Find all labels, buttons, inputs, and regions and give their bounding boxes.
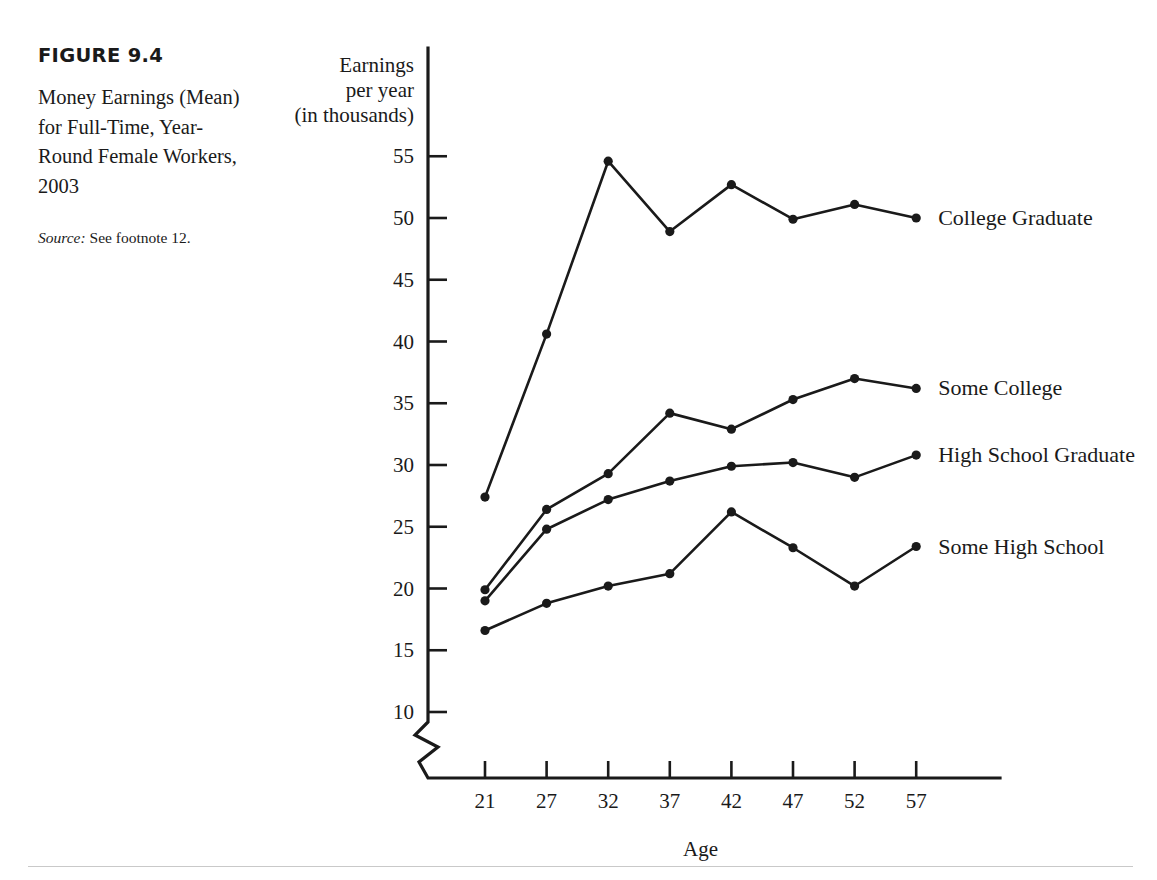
chart-axis-path [415,48,1000,778]
series-data-point [850,473,859,482]
series-label: College Graduate [938,205,1093,230]
y-axis-title-line: (in thousands) [294,103,414,127]
x-axis-tick-labels: 2127323742475257 [475,789,927,813]
series-data-point [788,215,797,224]
series-data-point [727,425,736,434]
series-label: Some High School [938,534,1104,559]
series-data-point [912,213,921,222]
y-tick-label: 55 [393,144,414,168]
chart-series-labels: College GraduateSome CollegeHigh School … [938,205,1135,559]
chart-canvas: 10152025303540455055 2127323742475257 Ea… [0,0,1157,880]
series-data-point [727,462,736,471]
y-axis-title-line: per year [346,78,414,102]
series-data-point [850,200,859,209]
chart-series-group [480,157,920,636]
series-data-point [850,374,859,383]
x-tick-label: 32 [598,789,619,813]
series-data-point [604,581,613,590]
series-data-point [542,329,551,338]
y-tick-label: 10 [393,700,414,724]
x-tick-label: 21 [475,789,496,813]
y-axis-title-line: Earnings [339,53,414,77]
series-data-point [727,180,736,189]
series-data-point [912,542,921,551]
y-tick-label: 35 [393,391,414,415]
y-tick-label: 40 [393,330,414,354]
series-data-point [665,409,674,418]
series-data-point [665,227,674,236]
series-data-point [604,157,613,166]
page-divider-rule [28,866,1133,867]
series-data-point [480,585,489,594]
y-tick-label: 20 [393,577,414,601]
x-axis-title: Age [683,837,718,861]
series-line [485,161,916,497]
series-data-point [542,525,551,534]
series-line [485,379,916,590]
x-tick-label: 37 [659,789,680,813]
chart-axes [415,48,1000,778]
chart-tick-marks [428,156,916,778]
series-data-point [604,495,613,504]
series-data-point [788,458,797,467]
x-tick-label: 42 [721,789,742,813]
series-data-point [604,469,613,478]
series-data-point [912,451,921,460]
series-data-point [788,543,797,552]
series-data-point [480,626,489,635]
y-tick-label: 30 [393,453,414,477]
y-axis-tick-labels: 10152025303540455055 [393,144,414,724]
series-data-point [480,596,489,605]
series-data-point [542,505,551,514]
x-tick-label: 52 [844,789,865,813]
series-data-point [850,581,859,590]
series-data-point [665,476,674,485]
y-tick-label: 25 [393,515,414,539]
series-data-point [912,384,921,393]
series-data-point [480,493,489,502]
line-chart: 10152025303540455055 2127323742475257 Ea… [0,0,1157,880]
x-tick-label: 47 [783,789,804,813]
series-data-point [665,569,674,578]
y-axis-title: Earningsper year(in thousands) [294,53,414,127]
y-tick-label: 45 [393,268,414,292]
series-data-point [727,507,736,516]
series-data-point [542,599,551,608]
y-tick-label: 50 [393,206,414,230]
x-tick-label: 57 [906,789,927,813]
series-label: Some College [938,375,1062,400]
x-tick-label: 27 [536,789,557,813]
series-label: High School Graduate [938,442,1135,467]
series-data-point [788,395,797,404]
y-tick-label: 15 [393,638,414,662]
x-axis-title: Age [683,837,718,861]
